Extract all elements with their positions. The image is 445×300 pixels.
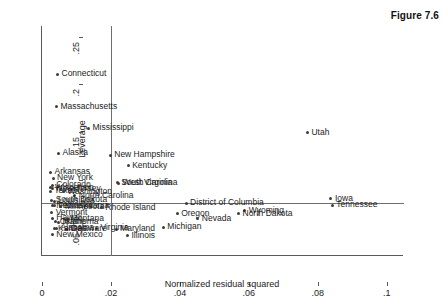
data-point-label: Utah xyxy=(311,128,329,137)
x-tick-label: .08 xyxy=(312,288,325,298)
data-point xyxy=(52,177,55,180)
data-point xyxy=(50,211,53,214)
x-tick-label: .1 xyxy=(383,288,391,298)
data-point-label: Rhode Island xyxy=(105,203,155,212)
data-point xyxy=(185,202,188,205)
data-point-label: Alaska xyxy=(63,148,89,157)
y-tick-mark xyxy=(79,132,83,133)
data-point-label: Illinois xyxy=(132,231,156,240)
data-point xyxy=(176,212,179,215)
data-point xyxy=(127,164,130,167)
data-point xyxy=(109,154,112,157)
data-point-label: Nevada xyxy=(202,214,231,223)
data-point-label: New Mexico xyxy=(56,230,102,239)
leverage-residual-scatter-chart: Figure 7.6 Leverage .05.1.15.2.25 0.02.0… xyxy=(0,0,445,300)
x-axis-title: Normalized residual squared xyxy=(41,279,403,289)
x-tick-label: .06 xyxy=(243,288,256,298)
data-point-label: Massachusetts xyxy=(60,102,117,111)
data-point-label: Connecticut xyxy=(62,69,107,78)
data-point xyxy=(87,127,90,130)
x-tick-label: 0 xyxy=(39,288,44,298)
data-point xyxy=(126,234,129,237)
plot-frame: Leverage .05.1.15.2.25 0.02.04.06.08.1 C… xyxy=(41,26,403,256)
data-point-label: Michigan xyxy=(167,222,201,231)
x-tick-label: .02 xyxy=(105,288,118,298)
data-point-label: District of Columbia xyxy=(190,198,264,207)
y-tick-mark xyxy=(79,84,83,85)
x-tick-label: .04 xyxy=(174,288,187,298)
data-point xyxy=(331,204,334,207)
data-point xyxy=(162,226,165,229)
y-tick-label: .25 xyxy=(71,42,81,55)
y-tick-mark xyxy=(79,37,83,38)
data-point xyxy=(51,233,54,236)
data-point-label: Mississippi xyxy=(93,123,134,132)
data-point xyxy=(329,197,332,200)
data-point xyxy=(53,200,56,203)
data-point-label: New Hampshire xyxy=(114,150,174,159)
data-point xyxy=(306,131,309,134)
data-point-label: Kentucky xyxy=(132,161,167,170)
figure-caption: Figure 7.6 xyxy=(391,10,439,21)
data-point xyxy=(56,73,59,76)
data-point xyxy=(196,217,199,220)
data-point-label: West Virginia xyxy=(123,178,173,187)
data-point xyxy=(62,190,65,193)
data-point-label: Tennessee xyxy=(336,200,377,209)
data-point xyxy=(237,212,240,215)
data-point xyxy=(55,105,58,108)
data-point xyxy=(51,217,54,220)
data-point xyxy=(49,171,52,174)
data-point xyxy=(57,152,60,155)
data-point-label: North Dakota xyxy=(243,209,293,218)
data-point xyxy=(117,182,120,185)
y-tick-label: .2 xyxy=(71,89,81,97)
data-point xyxy=(49,190,52,193)
data-point xyxy=(53,227,56,230)
